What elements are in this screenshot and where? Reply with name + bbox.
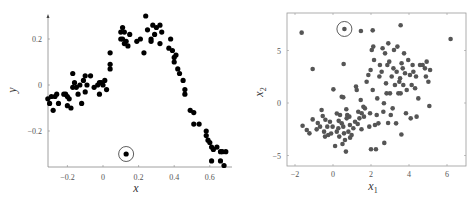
- data-point: [347, 114, 352, 119]
- data-point: [322, 129, 327, 134]
- data-point: [410, 63, 415, 68]
- data-point: [386, 121, 391, 126]
- data-point: [388, 113, 393, 118]
- right-axes-frame: −20246−505: [272, 13, 466, 179]
- data-point: [341, 95, 346, 100]
- data-point: [402, 51, 407, 56]
- data-point: [403, 71, 408, 76]
- data-point: [336, 119, 341, 124]
- data-point: [368, 68, 373, 73]
- data-point: [320, 114, 325, 119]
- data-point: [379, 69, 384, 74]
- data-point: [299, 30, 304, 35]
- data-point: [348, 135, 353, 140]
- data-point: [371, 44, 376, 49]
- data-point: [399, 132, 404, 137]
- data-point: [341, 124, 346, 129]
- data-point: [398, 91, 403, 96]
- data-point: [307, 131, 312, 136]
- data-point: [344, 149, 349, 154]
- data-point: [344, 107, 349, 112]
- data-point: [316, 121, 321, 126]
- data-point: [328, 119, 333, 124]
- right-x-tick-label: −2: [291, 170, 300, 179]
- data-point: [395, 44, 400, 49]
- data-point: [416, 96, 421, 101]
- data-point: [392, 48, 397, 53]
- data-point: [329, 131, 334, 136]
- right-y-tick-label: 0: [277, 99, 281, 108]
- data-point: [398, 76, 403, 81]
- data-point: [424, 59, 429, 64]
- data-point: [343, 138, 348, 143]
- data-point: [359, 127, 364, 132]
- data-point: [399, 61, 404, 66]
- data-point: [414, 74, 419, 79]
- right-y-tick-label: −5: [272, 152, 281, 161]
- data-point: [389, 74, 394, 79]
- data-point: [382, 141, 387, 146]
- data-point: [414, 114, 419, 119]
- data-point: [359, 29, 364, 34]
- data-point: [374, 147, 379, 152]
- data-point: [323, 118, 328, 123]
- data-point: [310, 67, 315, 72]
- data-point: [387, 59, 392, 64]
- data-point: [354, 88, 359, 93]
- data-point: [448, 37, 453, 42]
- data-point: [300, 123, 305, 128]
- data-point: [408, 116, 413, 121]
- data-point: [377, 74, 382, 79]
- data-point: [411, 69, 416, 74]
- right-y-axis-label: x2: [252, 87, 268, 97]
- data-point: [406, 58, 411, 63]
- right-x-tick-label: 6: [445, 170, 449, 179]
- data-point: [335, 111, 340, 116]
- data-point: [427, 104, 432, 109]
- right-x-tick-label: 4: [407, 170, 411, 179]
- data-point: [366, 73, 371, 78]
- data-point: [413, 86, 418, 91]
- right-y-tick-label: 5: [277, 47, 281, 56]
- data-point: [333, 144, 338, 149]
- data-point: [370, 28, 375, 33]
- data-point: [364, 79, 369, 84]
- data-point: [394, 121, 399, 126]
- data-point: [331, 87, 336, 92]
- data-point: [372, 58, 377, 63]
- right-x-tick-label: 2: [369, 170, 373, 179]
- data-point: [424, 74, 429, 79]
- data-point: [384, 81, 389, 86]
- data-point: [381, 109, 386, 114]
- data-point: [340, 142, 345, 147]
- data-point: [391, 66, 396, 71]
- data-point: [374, 113, 379, 118]
- data-point: [398, 23, 403, 28]
- right-x-axis-label: x1: [367, 179, 377, 195]
- data-point: [342, 131, 347, 136]
- data-point: [388, 91, 393, 96]
- data-point: [370, 88, 375, 93]
- data-point: [351, 126, 356, 131]
- data-point: [386, 41, 391, 46]
- data-point: [376, 121, 381, 126]
- data-point: [428, 68, 433, 73]
- data-point: [409, 83, 414, 88]
- right-data-points: [299, 23, 453, 154]
- data-point: [393, 83, 398, 88]
- right-x-tick-label: 0: [331, 170, 335, 179]
- data-point: [423, 66, 428, 71]
- highlighted-data-point: [342, 27, 347, 32]
- data-point: [404, 88, 409, 93]
- data-point: [390, 106, 395, 111]
- data-point: [383, 51, 388, 56]
- data-point: [408, 73, 413, 78]
- right-highlighted-point: [337, 21, 352, 36]
- data-point: [367, 124, 372, 129]
- data-point: [310, 117, 315, 122]
- data-point: [341, 62, 346, 67]
- data-point: [348, 123, 353, 128]
- data-point: [330, 124, 335, 129]
- data-point: [382, 101, 387, 106]
- data-point: [337, 134, 342, 139]
